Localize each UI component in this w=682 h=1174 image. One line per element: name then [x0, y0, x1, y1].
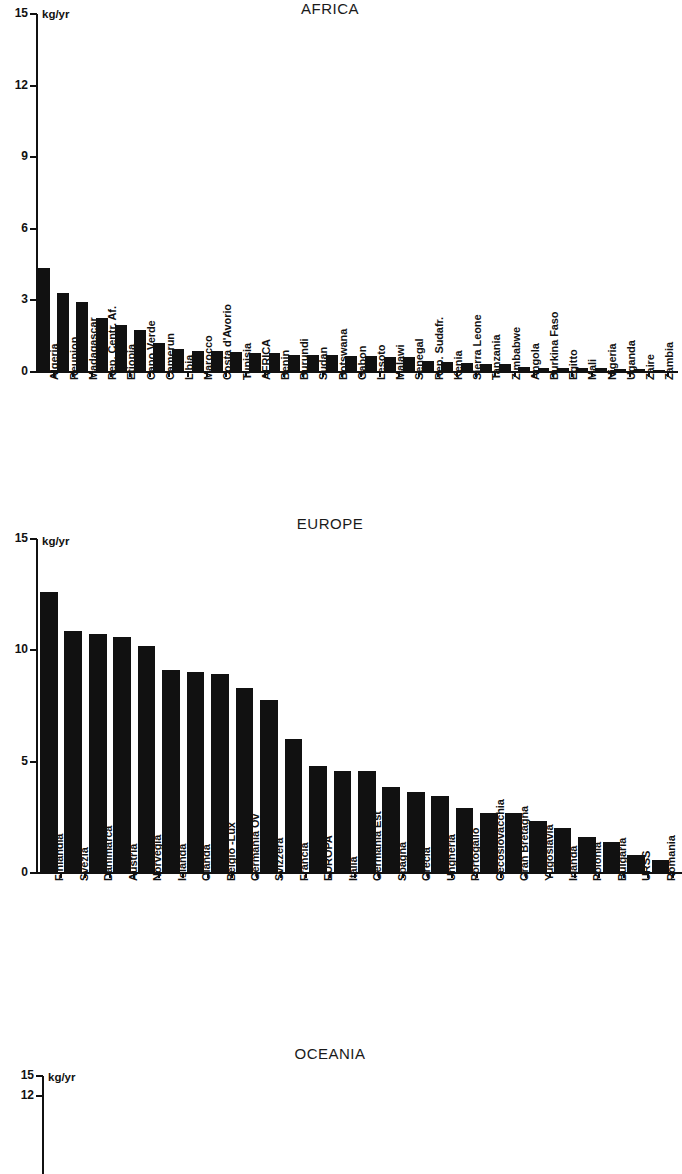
- chart-title-oceania: OCEANIA: [230, 1045, 430, 1062]
- x-axis-label: URSS: [640, 851, 652, 881]
- x-axis-label: Zambia: [663, 342, 675, 380]
- y-axis-tick: [30, 761, 37, 763]
- y-axis-tick-label: 3: [0, 292, 28, 306]
- bar: [113, 637, 131, 873]
- x-axis-label: Angola: [529, 343, 541, 380]
- x-axis-label: Marocco: [202, 335, 214, 380]
- x-axis-label: Gabon: [356, 346, 368, 380]
- x-axis-label: Camerun: [164, 333, 176, 380]
- plot-area-oceania: [42, 1076, 672, 1174]
- x-axis-label: Costa d'Avorio: [221, 304, 233, 380]
- x-axis-label: Grecia: [420, 847, 432, 881]
- x-axis-label: Lesoto: [375, 345, 387, 380]
- y-axis-tick-label: 15: [0, 6, 28, 20]
- x-axis-label: Islanda: [176, 844, 188, 881]
- x-axis-label: Mali: [586, 359, 598, 380]
- x-axis-label: Spagna: [396, 842, 408, 881]
- chart-panel-africa: AFRICA kg/yr AlgeriaReunionMadagascarRep…: [0, 0, 680, 500]
- x-axis-label: Belgio -Lux: [225, 822, 237, 881]
- x-axis-label: AFRICA: [260, 339, 272, 380]
- plot-area-africa: [36, 14, 676, 372]
- y-axis-tick-label: 12: [0, 78, 28, 92]
- x-axis-label: Svizzera: [273, 838, 285, 881]
- y-axis-tick-label: 6: [0, 221, 28, 235]
- x-axis-label: Portogallo: [469, 828, 481, 881]
- y-axis-tick: [30, 85, 37, 87]
- x-axis-label: EUROPA: [322, 835, 334, 881]
- x-axis-label: Tanzania: [490, 335, 502, 380]
- x-axis-label: Egitto: [567, 349, 579, 380]
- x-axis-label: Burkina Faso: [548, 312, 560, 381]
- x-axis-label: Germania Ov: [249, 814, 261, 881]
- plot-area-europe: [36, 539, 676, 873]
- y-axis-tick: [30, 228, 37, 230]
- bar: [162, 670, 180, 873]
- x-axis-label: Germania Est: [371, 811, 383, 881]
- bar: [40, 592, 58, 873]
- y-axis-tick: [30, 538, 37, 540]
- x-axis-label: Capo Verde: [145, 320, 157, 380]
- x-axis-label: Bulgaria: [616, 838, 628, 881]
- y-axis-tick: [30, 299, 37, 301]
- x-axis-label: Malawi: [394, 345, 406, 380]
- y-axis-tick-label: 15: [0, 531, 28, 545]
- x-axis-label: Burundi: [298, 339, 310, 380]
- y-axis-line: [36, 539, 38, 873]
- x-axis-label: Botswana: [337, 329, 349, 380]
- x-axis-label: Romania: [665, 835, 677, 881]
- x-axis-label: Polonia: [591, 842, 603, 881]
- y-axis-tick-label: 0: [0, 364, 28, 378]
- x-axis-label: Irlanda: [567, 846, 579, 881]
- x-axis-label: Rep. Centr. Af.: [106, 306, 118, 380]
- x-axis-label: Francia: [298, 843, 310, 881]
- x-axis-label: Cecoslovacchia: [494, 799, 506, 881]
- x-axis-label: Yugoslavia: [543, 825, 555, 881]
- y-axis-tick-label: 5: [0, 754, 28, 768]
- x-axis-label: Reunion: [68, 337, 80, 380]
- x-axis-label: Zimbabwe: [510, 327, 522, 380]
- x-axis-label: Sierra Leone: [471, 315, 483, 380]
- bar: [187, 672, 205, 874]
- y-axis-tick: [36, 1075, 43, 1077]
- x-axis-label: Senegal: [413, 339, 425, 381]
- x-axis-label: Austria: [127, 844, 139, 881]
- y-axis-tick: [30, 649, 37, 651]
- bar: [64, 631, 82, 873]
- y-axis-tick: [30, 156, 37, 158]
- x-axis-label: Svezia: [78, 847, 90, 881]
- x-axis-label: Olanda: [200, 844, 212, 881]
- y-axis-tick: [30, 13, 37, 15]
- chart-panel-oceania: OCEANIA kg/yr 1215: [0, 1020, 680, 1174]
- y-axis-tick-label: 0: [0, 865, 28, 879]
- x-axis-label: Uganda: [625, 340, 637, 380]
- x-axis-label: Libia: [183, 355, 195, 380]
- x-axis-label: Ungheria: [445, 834, 457, 881]
- chart-panel-europe: EUROPE kg/yr FinlandiaSveziaDanimarcaAus…: [0, 515, 680, 995]
- x-axis-label: Tunisia: [241, 343, 253, 380]
- y-axis-tick-label: 12: [4, 1088, 34, 1102]
- x-axis-label: Etiopia: [125, 344, 137, 380]
- x-axis-label: Algeria: [48, 343, 60, 380]
- y-axis-tick-label: 10: [0, 642, 28, 656]
- x-axis-label: Italia: [347, 857, 359, 881]
- y-axis-line: [42, 1076, 44, 1174]
- x-axis-label: Nigeria: [606, 343, 618, 380]
- x-axis-label: Kenia: [452, 351, 464, 380]
- y-axis-tick-label: 15: [4, 1068, 34, 1082]
- x-axis-label: Gran Bretagna: [518, 806, 530, 881]
- x-axis-label: Zaire: [644, 354, 656, 380]
- x-axis-label: Madagascar: [87, 317, 99, 380]
- x-axis-label: Rep. Sudafr.: [433, 317, 445, 380]
- x-axis-label: Norvegia: [151, 835, 163, 881]
- x-axis-label: Benin: [279, 350, 291, 380]
- x-axis-label: Danimarca: [102, 826, 114, 881]
- y-axis-tick: [36, 1095, 43, 1097]
- x-axis-label: Finlandia: [53, 834, 65, 881]
- x-axis-label: Sudan: [317, 347, 329, 380]
- chart-title-europe: EUROPE: [230, 515, 430, 532]
- y-axis-tick-label: 9: [0, 149, 28, 163]
